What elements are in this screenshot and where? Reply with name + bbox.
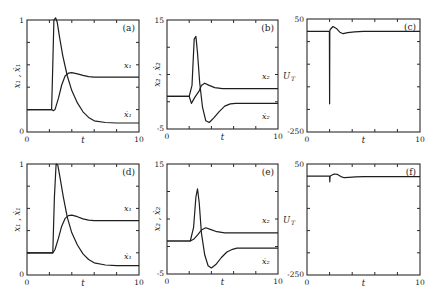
series-label: ẋ₁ (124, 110, 132, 119)
series-label: ẋ₁ (124, 252, 132, 261)
series-label: ẋ₂ (262, 257, 270, 266)
panel-e: 010-515tx₂ , ẋ₂(e)x₂ẋ₂ (152, 160, 283, 287)
x-axis-label: t (221, 132, 225, 142)
x-tick-label-max: 10 (134, 278, 144, 287)
x-axis-label: t (81, 278, 85, 288)
y-tick-label-min: -5 (157, 269, 165, 278)
series-line (27, 215, 139, 253)
x-tick-label-max: 10 (415, 135, 425, 144)
series-line (27, 164, 139, 266)
series-label: ẋ₂ (262, 112, 270, 121)
y-axis-label: UT (283, 215, 296, 226)
panel-label: (f) (406, 167, 416, 177)
y-tick-label-max: 1 (19, 160, 24, 169)
y-axis-label: UT (283, 71, 296, 82)
panel-label: (d) (122, 167, 135, 177)
y-tick-label-min: -5 (157, 124, 165, 133)
y-axis-label: x₁ , ẋ₁ (12, 64, 22, 89)
y-axis-label: x₁ , ẋ₁ (12, 207, 22, 232)
x-tick-label-min: 0 (165, 132, 170, 141)
panel-label: (c) (404, 22, 416, 32)
y-axis-label: x₂ , ẋ₂ (152, 62, 162, 87)
figure: 01001tx₁ , ẋ₁(a)x₁ẋ₁ 010-515tx₂ , ẋ₂(b)x… (0, 0, 438, 302)
axes-frame (307, 164, 420, 275)
series-line (27, 18, 139, 123)
y-axis-label: x₂ , ẋ₂ (152, 206, 162, 231)
x-axis-label: t (362, 278, 366, 288)
axes-frame (307, 19, 420, 132)
y-tick-label-max: 1 (19, 16, 24, 25)
y-tick-label-max: 50 (294, 160, 304, 169)
x-tick-label-min: 0 (305, 278, 310, 287)
series-label: x₂ (262, 216, 270, 225)
x-axis-label: t (81, 135, 85, 145)
panel-b: 010-515tx₂ , ẋ₂(b)x₂ẋ₂ (152, 16, 283, 142)
x-tick-label-max: 10 (273, 277, 283, 286)
series-line (307, 174, 420, 182)
series-line (167, 83, 278, 103)
series-line (167, 189, 278, 268)
x-tick-label-max: 10 (273, 132, 283, 141)
y-tick-label-max: 15 (154, 16, 164, 25)
series-line (27, 73, 139, 111)
panel-f: 010-25050tUT(f) (283, 160, 425, 288)
series-line (167, 228, 278, 241)
y-tick-label-max: 50 (294, 15, 304, 24)
panel-a: 01001tx₁ , ẋ₁(a)x₁ẋ₁ (12, 16, 144, 145)
x-tick-label-min: 0 (25, 278, 30, 287)
x-tick-label-min: 0 (305, 135, 310, 144)
y-tick-label-min: 0 (19, 270, 24, 279)
panel-label: (b) (261, 23, 274, 33)
x-tick-label-max: 10 (134, 135, 144, 144)
series-label: x₁ (124, 61, 132, 70)
panel-c: 010-25050tUT(c) (283, 15, 425, 145)
x-axis-label: t (221, 277, 225, 287)
y-tick-label-min: 0 (19, 127, 24, 136)
y-tick-label-max: 15 (154, 160, 164, 169)
series-line (307, 27, 420, 104)
x-tick-label-min: 0 (165, 277, 170, 286)
series-label: x₁ (124, 204, 132, 213)
y-tick-label-min: -250 (287, 127, 304, 136)
x-axis-label: t (362, 135, 366, 145)
series-label: x₂ (262, 72, 270, 81)
x-tick-label-min: 0 (25, 135, 30, 144)
panel-label: (a) (123, 23, 135, 33)
y-tick-label-min: -250 (287, 270, 304, 279)
x-tick-label-max: 10 (415, 278, 425, 287)
panel-label: (e) (262, 167, 274, 177)
panel-d: 01001tx₁ , ẋ₁(d)x₁ẋ₁ (12, 160, 144, 288)
